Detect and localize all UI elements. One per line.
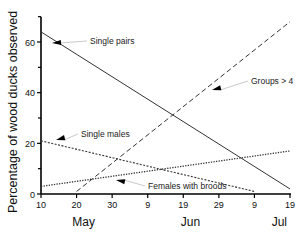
month-label: Jun xyxy=(181,215,200,229)
y-tick-label: 20 xyxy=(25,139,35,149)
month-label: May xyxy=(72,215,95,229)
series-single-pairs xyxy=(41,32,290,189)
annotation-label-single-pairs: Single pairs xyxy=(90,36,134,46)
x-tick-label: 19 xyxy=(178,200,188,210)
y-tick-label: 0 xyxy=(30,190,35,200)
annotation-arrow-line xyxy=(60,41,87,43)
annotation-arrow-line xyxy=(220,81,248,90)
chart-canvas: 020406010203091929919MayJunJul Single pa… xyxy=(0,0,299,234)
x-tick-label: 20 xyxy=(72,200,82,210)
x-tick-label: 9 xyxy=(145,200,150,210)
wood-duck-line-chart: 020406010203091929919MayJunJul Single pa… xyxy=(0,0,299,234)
arrowhead-icon xyxy=(52,40,61,45)
y-tick-label: 40 xyxy=(25,88,35,98)
series-lines xyxy=(41,22,290,192)
annotation-arrow-line xyxy=(124,180,145,186)
annotation-label-females-with-broods: Females with broods xyxy=(148,181,226,191)
x-tick-label: 19 xyxy=(285,200,295,210)
arrowhead-icon xyxy=(56,135,65,140)
axes: 020406010203091929919MayJunJul xyxy=(25,17,295,229)
annotation-arrow-line xyxy=(64,134,78,140)
x-tick-label: 30 xyxy=(107,200,117,210)
annotation-label-groups-4: Groups > 4 xyxy=(251,76,294,86)
x-tick-label: 9 xyxy=(252,200,257,210)
x-tick-label: 29 xyxy=(214,200,224,210)
month-label: Jul xyxy=(272,215,287,229)
x-tick-label: 10 xyxy=(36,200,46,210)
y-tick-label: 60 xyxy=(25,38,35,48)
y-axis-label: Percentage of wood ducks observed xyxy=(6,11,20,213)
arrowhead-icon xyxy=(116,179,125,184)
annotation-label-single-males: Single males xyxy=(81,129,130,139)
arrowhead-icon xyxy=(212,85,221,90)
